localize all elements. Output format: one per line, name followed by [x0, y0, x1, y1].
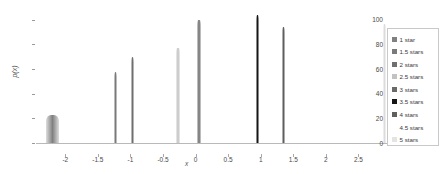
y-tick-mark — [32, 69, 35, 70]
legend-swatch-icon — [392, 137, 397, 142]
plot-area: 020406080100 -2-1.5-1-0.500.511.522.5 — [36, 10, 391, 144]
legend-item[interactable]: 3 stars — [392, 83, 435, 95]
legend-item[interactable]: 2.5 stars — [392, 71, 435, 83]
series-peak — [383, 24, 386, 143]
legend-item[interactable]: 1.5 stars — [392, 46, 435, 58]
x-tick-label: 0 — [183, 156, 209, 163]
y-tick-label: 80 — [357, 41, 383, 48]
legend-item[interactable]: 5 stars — [392, 134, 435, 146]
series-peak — [256, 15, 259, 143]
x-tick-label: -2 — [52, 156, 78, 163]
x-tick-label: 0.5 — [215, 156, 241, 163]
legend-item[interactable]: 1 star — [392, 33, 435, 45]
legend-item-label: 1 star — [400, 36, 415, 43]
legend-item-label: 3 stars — [400, 86, 419, 93]
y-tick-mark — [32, 94, 35, 95]
x-tick-label: 1 — [248, 156, 274, 163]
legend-swatch-icon — [392, 112, 397, 117]
series-peak — [197, 20, 200, 143]
legend-item-label: 4.5 stars — [400, 124, 424, 131]
y-axis-label: p(x) — [11, 50, 18, 94]
legend-item[interactable]: 4 stars — [392, 109, 435, 121]
legend-item-label: 4 stars — [400, 111, 419, 118]
legend-swatch-icon — [392, 125, 397, 130]
x-tick-label: 1.5 — [280, 156, 306, 163]
y-tick-label: 60 — [357, 66, 383, 73]
series-peak — [46, 115, 59, 143]
legend-item[interactable]: 4.5 stars — [392, 121, 435, 133]
series-peak — [114, 72, 117, 143]
x-tick-label: -1 — [117, 156, 143, 163]
y-tick-mark — [32, 143, 35, 144]
y-tick-label: 40 — [357, 90, 383, 97]
y-tick-mark — [32, 118, 35, 119]
y-tick-mark — [32, 20, 35, 21]
legend-swatch-icon — [392, 74, 397, 79]
legend-item-label: 1.5 stars — [400, 48, 424, 55]
legend-item[interactable]: 2 stars — [392, 58, 435, 70]
series-peak — [176, 48, 179, 143]
legend-item-label: 2 stars — [400, 61, 419, 68]
x-tick-label: -1.5 — [85, 156, 111, 163]
series-peak — [282, 27, 285, 143]
y-tick-label: 20 — [357, 115, 383, 122]
y-tick-label: 0 — [357, 140, 383, 147]
x-tick-label: 2.5 — [345, 156, 371, 163]
legend-item-label: 3.5 stars — [400, 98, 424, 105]
x-tick-label: -0.5 — [150, 156, 176, 163]
legend-swatch-icon — [392, 87, 397, 92]
y-tick-label: 100 — [357, 16, 383, 23]
chart-figure: p(x) x 020406080100 -2-1.5-1-0.500.511.5… — [0, 0, 443, 174]
legend-item-label: 5 stars — [400, 136, 419, 143]
y-tick-mark — [32, 44, 35, 45]
legend-swatch-icon — [392, 99, 397, 104]
x-axis-line — [36, 143, 391, 144]
legend-item-label: 2.5 stars — [400, 73, 424, 80]
legend-item[interactable]: 3.5 stars — [392, 96, 435, 108]
chart-legend: 1 star1.5 stars2 stars2.5 stars3 stars3.… — [387, 28, 439, 146]
legend-swatch-icon — [392, 37, 397, 42]
legend-swatch-icon — [392, 49, 397, 54]
series-peak — [131, 57, 134, 143]
legend-swatch-icon — [392, 62, 397, 67]
x-tick-label: 2 — [313, 156, 339, 163]
